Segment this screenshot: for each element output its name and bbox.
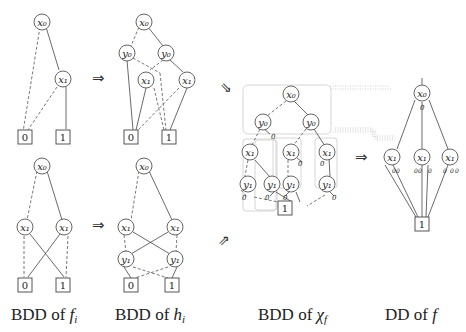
node-x0: x₀ xyxy=(136,158,152,174)
svg-text:x₁: x₁ xyxy=(322,147,332,158)
bdd-fi-bottom: x₀ x₁ x₁ 0 1 xyxy=(17,158,72,292)
node-y0-right: y₀ xyxy=(158,45,174,61)
bdd-hi-bottom: x₀ x₁ x₁ y₁ y₁ 0 1 xyxy=(118,158,183,292)
bdd-hi-top: x₀ y₀ y₀ x₁ x₁ 0 1 xyxy=(119,14,195,144)
svg-text:x₁: x₁ xyxy=(445,152,455,163)
node-y1-b: y₁ xyxy=(264,176,280,192)
svg-text:y₁: y₁ xyxy=(242,179,253,190)
node-x0: x₀ xyxy=(283,86,299,102)
svg-text:0: 0 xyxy=(420,104,425,112)
node-x1-c: x₁ xyxy=(442,149,458,165)
implies-arrow-up-right: ⇗ xyxy=(218,232,230,248)
svg-text:y₀: y₀ xyxy=(257,117,268,128)
svg-text:x₁: x₁ xyxy=(58,74,68,85)
svg-text:0: 0 xyxy=(128,132,134,143)
svg-text:0: 0 xyxy=(320,160,325,168)
svg-text:x₁: x₁ xyxy=(417,152,427,163)
svg-text:0: 0 xyxy=(455,167,459,174)
svg-text:0: 0 xyxy=(22,280,28,291)
node-x1: x₁ xyxy=(55,71,71,87)
svg-text:1: 1 xyxy=(60,132,66,143)
node-x1-left: x₁ xyxy=(17,219,33,235)
node-y0-right: y₀ xyxy=(303,114,319,130)
svg-text:0: 0 xyxy=(396,167,400,174)
terminal-1: 1 xyxy=(56,130,70,144)
node-x1-b: x₁ xyxy=(414,149,430,165)
svg-text:0: 0 xyxy=(265,194,270,202)
node-x1-c: x₁ xyxy=(319,144,335,160)
svg-text:0: 0 xyxy=(128,280,134,291)
node-y1-a: y₁ xyxy=(240,176,256,192)
svg-text:0: 0 xyxy=(450,167,454,174)
svg-text:x₀: x₀ xyxy=(417,88,427,99)
svg-text:0: 0 xyxy=(428,167,432,174)
svg-text:x₁: x₁ xyxy=(387,152,397,163)
svg-text:y₁: y₁ xyxy=(266,179,277,190)
svg-text:y₀: y₀ xyxy=(121,48,132,59)
terminal-0: 0 xyxy=(124,130,138,144)
terminal-1: 1 xyxy=(165,278,179,292)
svg-text:x₀: x₀ xyxy=(139,17,149,28)
svg-text:0: 0 xyxy=(418,167,422,174)
svg-text:x₁: x₁ xyxy=(20,222,30,233)
svg-text:0: 0 xyxy=(271,133,276,141)
svg-text:x₁: x₁ xyxy=(59,222,69,233)
svg-text:x₁: x₁ xyxy=(245,147,255,158)
node-x1-right: x₁ xyxy=(56,219,72,235)
svg-text:x₁: x₁ xyxy=(170,222,180,233)
svg-text:x₀: x₀ xyxy=(286,89,296,100)
terminal-1: 1 xyxy=(278,201,292,215)
svg-text:1: 1 xyxy=(282,203,288,214)
node-x1-a: x₁ xyxy=(384,149,400,165)
svg-text:1: 1 xyxy=(166,132,172,143)
implies-arrow-2: ⇒ xyxy=(92,216,105,234)
svg-text:1: 1 xyxy=(169,280,175,291)
svg-text:y₁: y₁ xyxy=(285,179,296,190)
svg-text:1: 1 xyxy=(419,219,425,230)
node-x0: x₀ xyxy=(136,14,152,30)
node-x0: x₀ xyxy=(414,85,430,101)
node-y1-d: y₁ xyxy=(319,176,335,192)
bdd-chi-f: x₀ y₀ y₀ 0 x₁ x₁ x₁ 0 0 y₁ y₁ y₁ y₁ 0 0 … xyxy=(240,85,395,215)
node-x1-left: x₁ xyxy=(118,219,134,235)
implies-arrow-down-right: ⇘ xyxy=(220,79,232,95)
svg-text:0: 0 xyxy=(298,160,303,168)
terminal-1: 1 xyxy=(415,217,429,231)
svg-text:x₀: x₀ xyxy=(37,161,47,172)
bdd-fi-top: x₀ x₁ 0 1 xyxy=(18,14,71,144)
svg-text:x₁: x₁ xyxy=(286,147,296,158)
terminal-0: 0 xyxy=(18,278,32,292)
terminal-1: 1 xyxy=(56,278,70,292)
node-y0-left: y₀ xyxy=(119,45,135,61)
caption-bdd-chi-f: BDD of χf xyxy=(258,305,329,325)
svg-text:y₁: y₁ xyxy=(321,179,332,190)
svg-text:0: 0 xyxy=(22,132,28,143)
node-x1-left: x₁ xyxy=(138,72,154,88)
svg-text:1: 1 xyxy=(60,280,66,291)
implies-arrow-3: ⇒ xyxy=(355,148,368,166)
svg-text:y₀: y₀ xyxy=(160,48,171,59)
terminal-0: 0 xyxy=(18,130,32,144)
svg-text:0: 0 xyxy=(443,167,447,174)
svg-text:x₁: x₁ xyxy=(121,222,131,233)
node-x1-right: x₁ xyxy=(179,72,195,88)
node-x1-a: x₁ xyxy=(242,144,258,160)
node-x1-b: x₁ xyxy=(283,144,299,160)
terminal-0: 0 xyxy=(124,278,138,292)
bdd-transformation-diagram: x₀ x₁ 0 1 ⇒ x₀ y₀ y₀ x₁ x₁ 0 1 ⇘ x₀ x₁ xyxy=(0,0,466,332)
dd-f: 0 x₀ x₁ x₁ x₁ 0 0 0 0 0 0 0 0 1 xyxy=(384,78,459,231)
node-y1-right: y₁ xyxy=(167,251,183,267)
svg-text:0: 0 xyxy=(332,194,337,202)
svg-text:x₁: x₁ xyxy=(182,75,192,86)
svg-text:x₀: x₀ xyxy=(37,17,47,28)
node-x1-right: x₁ xyxy=(167,219,183,235)
svg-text:x₁: x₁ xyxy=(141,75,151,86)
terminal-1: 1 xyxy=(162,130,176,144)
node-y1-c: y₁ xyxy=(283,176,299,192)
svg-text:0: 0 xyxy=(242,194,247,202)
caption-bdd-fi: BDD of fi xyxy=(11,305,77,325)
caption-dd-f: DD of f xyxy=(385,305,439,324)
svg-text:y₁: y₁ xyxy=(169,254,180,265)
node-x0: x₀ xyxy=(34,14,50,30)
node-y0-left: y₀ xyxy=(255,114,271,130)
